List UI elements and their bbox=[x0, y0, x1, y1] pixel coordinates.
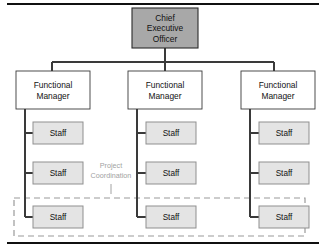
manager-node-2[interactable]: FunctionalManager bbox=[128, 71, 202, 109]
staff-label-c3-r1: Staff bbox=[276, 129, 293, 138]
manager-node-1[interactable]: FunctionalManager bbox=[16, 71, 90, 109]
staff-node-c3-r3[interactable]: Staff bbox=[259, 206, 309, 228]
staff-node-c2-r2[interactable]: Staff bbox=[146, 162, 196, 184]
manager-label-2-line-1: Functional bbox=[146, 80, 185, 90]
manager-label-3-line-1: Functional bbox=[259, 80, 298, 90]
staff-label-c1-r3: Staff bbox=[50, 213, 67, 222]
coordination-label-line-2: Coordination bbox=[91, 171, 132, 180]
manager-label-1-line-2: Manager bbox=[36, 91, 69, 101]
staff-nodes: StaffStaffStaffStaffStaffStaffStaffStaff… bbox=[33, 122, 309, 228]
project-coordination-annotation: Project Coordination bbox=[91, 161, 132, 194]
manager-nodes: FunctionalManagerFunctionalManagerFuncti… bbox=[16, 71, 315, 109]
staff-node-c1-r3[interactable]: Staff bbox=[33, 206, 83, 228]
manager-label-3-line-2: Manager bbox=[261, 91, 294, 101]
org-chart-canvas: Chief Executive Officer FunctionalManage… bbox=[0, 0, 326, 252]
staff-node-c1-r2[interactable]: Staff bbox=[33, 162, 83, 184]
staff-label-c1-r2: Staff bbox=[50, 169, 67, 178]
staff-label-c2-r2: Staff bbox=[163, 169, 180, 178]
manager-label-2-line-2: Manager bbox=[148, 91, 181, 101]
staff-node-c1-r1[interactable]: Staff bbox=[33, 122, 83, 144]
staff-label-c2-r3: Staff bbox=[163, 213, 180, 222]
executive-label-line-3: Officer bbox=[153, 34, 178, 44]
staff-label-c3-r2: Staff bbox=[276, 169, 293, 178]
manager-node-3[interactable]: FunctionalManager bbox=[241, 71, 315, 109]
staff-label-c3-r3: Staff bbox=[276, 213, 293, 222]
manager-label-1-line-1: Functional bbox=[34, 80, 73, 90]
staff-label-c1-r1: Staff bbox=[50, 129, 67, 138]
staff-node-c2-r3[interactable]: Staff bbox=[146, 206, 196, 228]
executive-node[interactable]: Chief Executive Officer bbox=[132, 8, 198, 48]
staff-node-c3-r2[interactable]: Staff bbox=[259, 162, 309, 184]
org-chart-diagram: Chief Executive Officer FunctionalManage… bbox=[0, 0, 326, 252]
staff-node-c2-r1[interactable]: Staff bbox=[146, 122, 196, 144]
executive-label-line-2: Executive bbox=[147, 23, 184, 33]
manager-drop-stubs bbox=[52, 62, 274, 71]
staff-label-c2-r1: Staff bbox=[163, 129, 180, 138]
executive-label-line-1: Chief bbox=[155, 13, 175, 23]
coordination-label-line-1: Project bbox=[100, 161, 122, 170]
staff-node-c3-r1[interactable]: Staff bbox=[259, 122, 309, 144]
